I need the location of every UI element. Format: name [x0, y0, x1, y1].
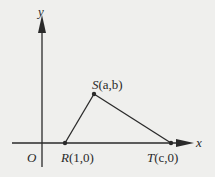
y-axis-label: y: [38, 5, 44, 18]
point-s-label: S(a,b): [92, 78, 123, 91]
x-axis-arrow-icon: [176, 139, 194, 147]
segment-st: [94, 94, 171, 143]
segment-rs: [65, 94, 94, 143]
y-axis: [38, 15, 46, 167]
point-r: [63, 141, 67, 145]
diagram-canvas: y x O S(a,b) R(1,0) T(c,0): [0, 0, 215, 177]
point-s: [92, 92, 96, 96]
point-t: [169, 141, 173, 145]
point-t-label: T(c,0): [147, 151, 178, 164]
point-r-label: R(1,0): [61, 151, 94, 164]
x-axis-label: x: [196, 136, 202, 149]
origin-label: O: [27, 151, 36, 164]
